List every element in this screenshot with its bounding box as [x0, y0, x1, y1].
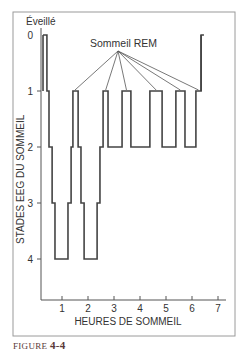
caption-label: FIGURE: [13, 341, 47, 351]
trace: [43, 35, 204, 259]
caption-number: 4-4: [50, 339, 66, 351]
axes: 123456701234: [27, 28, 226, 314]
annotation-lines: [75, 51, 199, 90]
y-tick-label: 1: [27, 86, 33, 97]
y-tick-label: 2: [27, 142, 33, 153]
annotation-pointer-line: [118, 51, 126, 90]
figure-caption: FIGURE 4-4: [13, 339, 65, 351]
hypnogram-line: [43, 35, 204, 259]
x-tick-label: 2: [85, 303, 91, 314]
y-top-label: Éveillé: [26, 15, 56, 27]
y-axis-label: STADES EEG DU SOMMEIL: [15, 114, 26, 244]
annotation-pointer-line: [118, 51, 199, 90]
hypnogram-chart: Éveillé Sommeil REM STADES EEG DU SOMMEI…: [0, 0, 244, 354]
x-tick-label: 4: [137, 303, 143, 314]
x-tick-label: 1: [59, 303, 65, 314]
annotation-pointer-line: [118, 51, 156, 90]
annotation-label: Sommeil REM: [90, 37, 157, 49]
x-tick-label: 3: [111, 303, 117, 314]
y-tick-label: 4: [27, 254, 33, 265]
x-tick-label: 5: [163, 303, 169, 314]
annotation-pointer-line: [118, 51, 180, 90]
x-tick-label: 7: [215, 303, 221, 314]
y-tick-label: 0: [27, 30, 33, 41]
y-tick-label: 3: [27, 198, 33, 209]
x-tick-label: 6: [189, 303, 195, 314]
x-axis-label: HEURES DE SOMMEIL: [74, 316, 182, 327]
